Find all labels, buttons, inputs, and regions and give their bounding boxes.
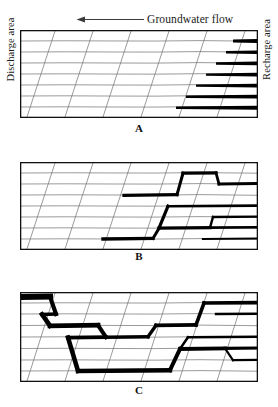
panel-b [20,162,258,250]
panel-a-diagram [20,30,258,118]
panel-b-caption: B [0,250,278,262]
groundwater-flow-header: Groundwater flow [0,9,278,29]
panel-c-caption: C [0,384,278,396]
panel-c-diagram [20,292,258,382]
discharge-area-label: Discharge area [5,10,16,90]
panel-c [20,292,258,382]
recharge-area-label: Recharge area [261,10,272,90]
groundwater-flow-label: Groundwater flow [147,13,233,25]
panel-b-diagram [20,162,258,250]
panel-a-caption: A [0,122,278,134]
panel-a [20,30,258,118]
flow-arrow-icon [76,14,144,25]
karst-conduit-development-figure: Groundwater flow Discharge area Recharge… [0,0,278,407]
